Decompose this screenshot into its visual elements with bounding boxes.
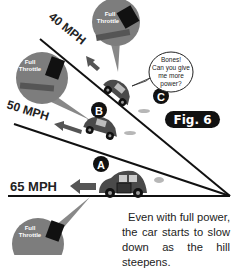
svg-text:Full: Full <box>105 11 116 17</box>
svg-text:Throttle: Throttle <box>97 18 120 24</box>
figure-label: Fig. 6 <box>165 111 220 128</box>
arrow-40mph-icon <box>86 56 100 71</box>
svg-text:power?: power? <box>160 80 182 88</box>
svg-text:me more: me more <box>158 72 184 79</box>
throttle-bubble-c: Full Throttle <box>92 0 140 72</box>
svg-text:Full: Full <box>25 225 36 231</box>
exhaust-a <box>154 177 164 183</box>
svg-text:Throttle: Throttle <box>19 66 42 72</box>
throttle-bubble-a: Full Throttle <box>12 197 90 255</box>
svg-text:Full: Full <box>25 59 36 65</box>
svg-text:B: B <box>95 105 103 117</box>
speed-label-40mph: 40 MPH <box>46 9 89 47</box>
svg-text:Bones!: Bones! <box>161 56 181 63</box>
svg-text:Can you give: Can you give <box>152 64 190 72</box>
exhaust-c <box>138 109 150 113</box>
caption-line-3: down as the hill steepens. <box>122 240 230 270</box>
caption-line-2: the car starts to slow <box>122 225 230 240</box>
svg-text:A: A <box>97 159 105 171</box>
badge-b: B <box>91 102 107 118</box>
exhaust-b <box>124 131 136 135</box>
arrow-65mph-icon <box>70 179 96 194</box>
caption-line-1: Even with full power, <box>122 210 230 225</box>
svg-text:Throttle: Throttle <box>19 232 42 238</box>
arrow-50mph-icon <box>54 121 82 134</box>
car-a <box>99 171 147 198</box>
speech-bubble: Bones! Can you give me more power? <box>132 52 193 92</box>
badge-a: A <box>93 156 109 172</box>
figure-caption: Even with full power, the car starts to … <box>122 210 230 270</box>
speed-label-65mph: 65 MPH <box>10 179 57 194</box>
svg-text:Fig. 6: Fig. 6 <box>174 113 212 127</box>
svg-text:C: C <box>157 91 165 103</box>
